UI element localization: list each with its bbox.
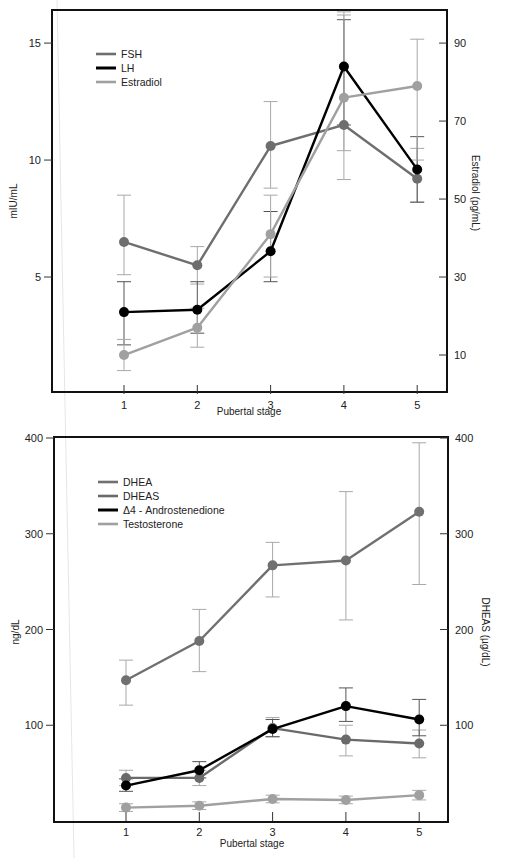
bottom-marker-4-androstenedione bbox=[194, 765, 204, 775]
bottom-chart: 12345100200300400100200300400 DHEADHEASΔ… bbox=[10, 432, 491, 849]
bottom-left-tick-label: 200 bbox=[25, 624, 43, 636]
top-marker-lh bbox=[119, 307, 129, 317]
top-left-tick-label: 15 bbox=[29, 37, 41, 49]
bottom-marker-dheas bbox=[414, 738, 424, 748]
bottom-marker-testosterone bbox=[414, 790, 424, 800]
legend-label-estradiol: Estradiol bbox=[121, 76, 162, 88]
bottom-errorbars--4-androstenedione bbox=[119, 688, 426, 791]
bottom-marker-dhea bbox=[341, 556, 351, 566]
legend-label-testosterone: Testosterone bbox=[123, 518, 183, 530]
bottom-marker-dhea bbox=[194, 636, 204, 646]
bottom-series bbox=[119, 443, 426, 813]
bottom-marker-4-androstenedione bbox=[268, 724, 278, 734]
figure: 12345510151030507090 FSHLHEstradiol Pube… bbox=[0, 0, 506, 858]
bottom-marker-dhea bbox=[414, 507, 424, 517]
top-right-axis-title: Estradiol (pg/mL) bbox=[470, 155, 481, 231]
legend-label-fsh: FSH bbox=[121, 48, 142, 60]
bottom-legend: DHEADHEASΔ4 - AndrostenedioneTestosteron… bbox=[98, 476, 225, 530]
top-left-tick-label: 10 bbox=[29, 154, 41, 166]
bottom-marker-dheas bbox=[341, 735, 351, 745]
top-marker-fsh bbox=[119, 237, 129, 247]
bottom-marker-4-androstenedione bbox=[414, 715, 424, 725]
bottom-marker-testosterone bbox=[121, 803, 131, 813]
bottom-right-tick-label: 100 bbox=[455, 719, 473, 731]
top-marker-estradiol bbox=[339, 93, 349, 103]
top-marker-lh bbox=[412, 164, 422, 174]
top-errorbars-estradiol bbox=[117, 12, 424, 371]
scan-artifact bbox=[57, 0, 74, 858]
top-marker-lh bbox=[266, 246, 276, 256]
bottom-x-tick-label: 5 bbox=[416, 826, 422, 838]
top-series bbox=[117, 12, 424, 371]
top-right-tick-label: 70 bbox=[454, 115, 466, 127]
top-marker-fsh bbox=[266, 141, 276, 151]
top-marker-fsh bbox=[412, 174, 422, 184]
bottom-axes: 12345100200300400100200300400 bbox=[25, 432, 474, 838]
bottom-right-tick-label: 400 bbox=[455, 432, 473, 444]
top-chart: 12345510151030507090 FSHLHEstradiol Pube… bbox=[8, 10, 481, 417]
bottom-right-tick-label: 200 bbox=[455, 624, 473, 636]
top-marker-estradiol bbox=[192, 323, 202, 333]
top-marker-estradiol bbox=[266, 229, 276, 239]
bottom-left-axis-title: ng/dL bbox=[10, 619, 21, 644]
bottom-marker-testosterone bbox=[194, 801, 204, 811]
bottom-x-axis-title: Pubertal stage bbox=[220, 838, 285, 849]
top-marker-estradiol bbox=[119, 350, 129, 360]
top-marker-lh bbox=[339, 61, 349, 71]
bottom-marker-4-androstenedione bbox=[341, 701, 351, 711]
top-left-axis-title: mIU/mL bbox=[8, 183, 19, 218]
bottom-left-tick-label: 400 bbox=[25, 432, 43, 444]
top-right-tick-label: 10 bbox=[454, 349, 466, 361]
bottom-right-axis-title: DHEAS (µg/dL) bbox=[480, 597, 491, 666]
bottom-left-tick-label: 300 bbox=[25, 528, 43, 540]
top-x-tick-label: 5 bbox=[414, 399, 420, 411]
legend-label-4-androstenedione: Δ4 - Androstenedione bbox=[123, 504, 225, 516]
bottom-marker-testosterone bbox=[268, 794, 278, 804]
top-right-tick-label: 30 bbox=[454, 271, 466, 283]
top-x-tick-label: 1 bbox=[121, 399, 127, 411]
legend-label-dhea: DHEA bbox=[123, 476, 152, 488]
bottom-x-tick-label: 1 bbox=[123, 826, 129, 838]
bottom-marker-dhea bbox=[121, 675, 131, 685]
bottom-x-tick-label: 2 bbox=[196, 826, 202, 838]
bottom-marker-testosterone bbox=[341, 795, 351, 805]
top-left-tick-label: 5 bbox=[35, 271, 41, 283]
bottom-x-tick-label: 4 bbox=[343, 826, 349, 838]
bottom-errorbars-dhea bbox=[119, 443, 426, 705]
top-right-tick-label: 90 bbox=[454, 37, 466, 49]
bottom-right-tick-label: 300 bbox=[455, 528, 473, 540]
bottom-x-tick-label: 3 bbox=[270, 826, 276, 838]
top-right-tick-label: 50 bbox=[454, 193, 466, 205]
top-axes: 12345510151030507090 bbox=[29, 37, 467, 411]
bottom-marker-4-androstenedione bbox=[121, 781, 131, 791]
top-x-axis-title: Pubertal stage bbox=[217, 406, 282, 417]
top-legend: FSHLHEstradiol bbox=[96, 48, 162, 88]
legend-label-dheas: DHEAS bbox=[123, 490, 159, 502]
legend-label-lh: LH bbox=[121, 62, 134, 74]
top-x-tick-label: 4 bbox=[341, 399, 347, 411]
top-marker-lh bbox=[192, 305, 202, 315]
top-marker-fsh bbox=[339, 120, 349, 130]
bottom-marker-dhea bbox=[268, 560, 278, 570]
top-marker-estradiol bbox=[412, 81, 422, 91]
bottom-left-tick-label: 100 bbox=[25, 719, 43, 731]
top-x-tick-label: 2 bbox=[194, 399, 200, 411]
top-marker-fsh bbox=[192, 260, 202, 270]
